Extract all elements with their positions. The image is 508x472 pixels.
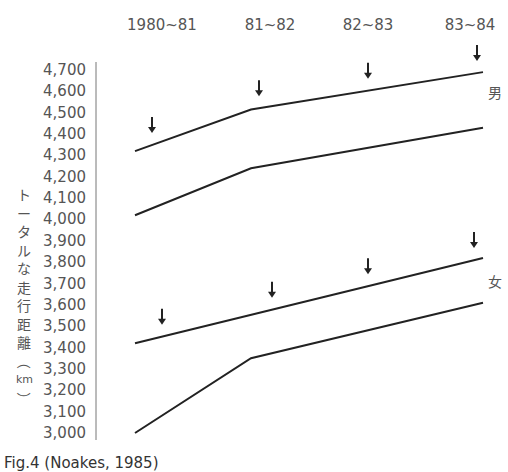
- y-label-char: ト: [16, 186, 32, 205]
- y-label-char: ル: [16, 242, 32, 261]
- y-tick-label: 4,600: [43, 82, 86, 100]
- y-tick-label: 3,300: [43, 360, 86, 378]
- down-arrow-icon: [364, 258, 372, 274]
- y-tick-label: 3,000: [43, 424, 86, 442]
- down-arrow-icon: [255, 80, 263, 96]
- down-arrow-icon: [268, 282, 276, 298]
- y-tick-label: 3,900: [43, 232, 86, 250]
- y-tick-label: 3,500: [43, 317, 86, 335]
- y-tick-label: 3,100: [43, 403, 86, 421]
- y-label-char: ー: [16, 205, 32, 224]
- x-category-label: 1980~81: [127, 16, 197, 34]
- figure-caption: Fig.4 (Noakes, 1985): [4, 454, 159, 472]
- x-category-label: 83~84: [445, 16, 496, 34]
- y-label-char: 離: [16, 334, 32, 353]
- y-tick-label: 4,500: [43, 104, 86, 122]
- y-label-char: （: [15, 354, 34, 370]
- y-label-char: 走: [16, 279, 32, 298]
- y-tick-label: 4,300: [43, 146, 86, 164]
- series-label-male: 男: [488, 85, 502, 101]
- x-category-label: 82~83: [343, 16, 394, 34]
- down-arrow-icon: [148, 117, 156, 133]
- series-lines: [135, 72, 483, 433]
- y-tick-label: 4,000: [43, 210, 86, 228]
- down-arrow-icon: [158, 309, 166, 325]
- y-tick-label: 4,100: [43, 189, 86, 207]
- y-tick-label: 3,400: [43, 339, 86, 357]
- y-tick-label: 4,400: [43, 125, 86, 143]
- down-arrow-icon: [470, 232, 478, 248]
- y-label-char: な: [16, 260, 32, 279]
- y-label-char: 行: [16, 297, 32, 316]
- y-tick-label: 3,200: [43, 381, 86, 399]
- series-line: [135, 258, 483, 343]
- down-arrow-icon: [473, 45, 481, 61]
- y-axis-label: トータルな走行距離（km）: [16, 186, 32, 408]
- x-category-label: 81~82: [245, 16, 296, 34]
- y-label-char: 距: [16, 316, 32, 335]
- series-line: [135, 72, 483, 151]
- y-tick-labels: 4,7004,6004,5004,4004,3004,2004,1004,000…: [43, 61, 86, 442]
- y-label-char: タ: [16, 223, 32, 242]
- series-label-female: 女: [488, 274, 502, 290]
- series-line: [135, 303, 483, 433]
- down-arrow-icon: [364, 63, 372, 79]
- y-tick-label: 4,200: [43, 168, 86, 186]
- y-tick-label: 4,700: [43, 61, 86, 79]
- y-label-char: km: [16, 371, 32, 390]
- y-tick-label: 3,700: [43, 275, 86, 293]
- x-category-labels: 1980~8181~8282~8383~84: [127, 16, 495, 34]
- series-line: [135, 128, 483, 216]
- y-tick-label: 3,600: [43, 296, 86, 314]
- arrow-markers: [148, 45, 481, 325]
- y-label-char: ）: [15, 391, 34, 407]
- y-tick-label: 3,800: [43, 253, 86, 271]
